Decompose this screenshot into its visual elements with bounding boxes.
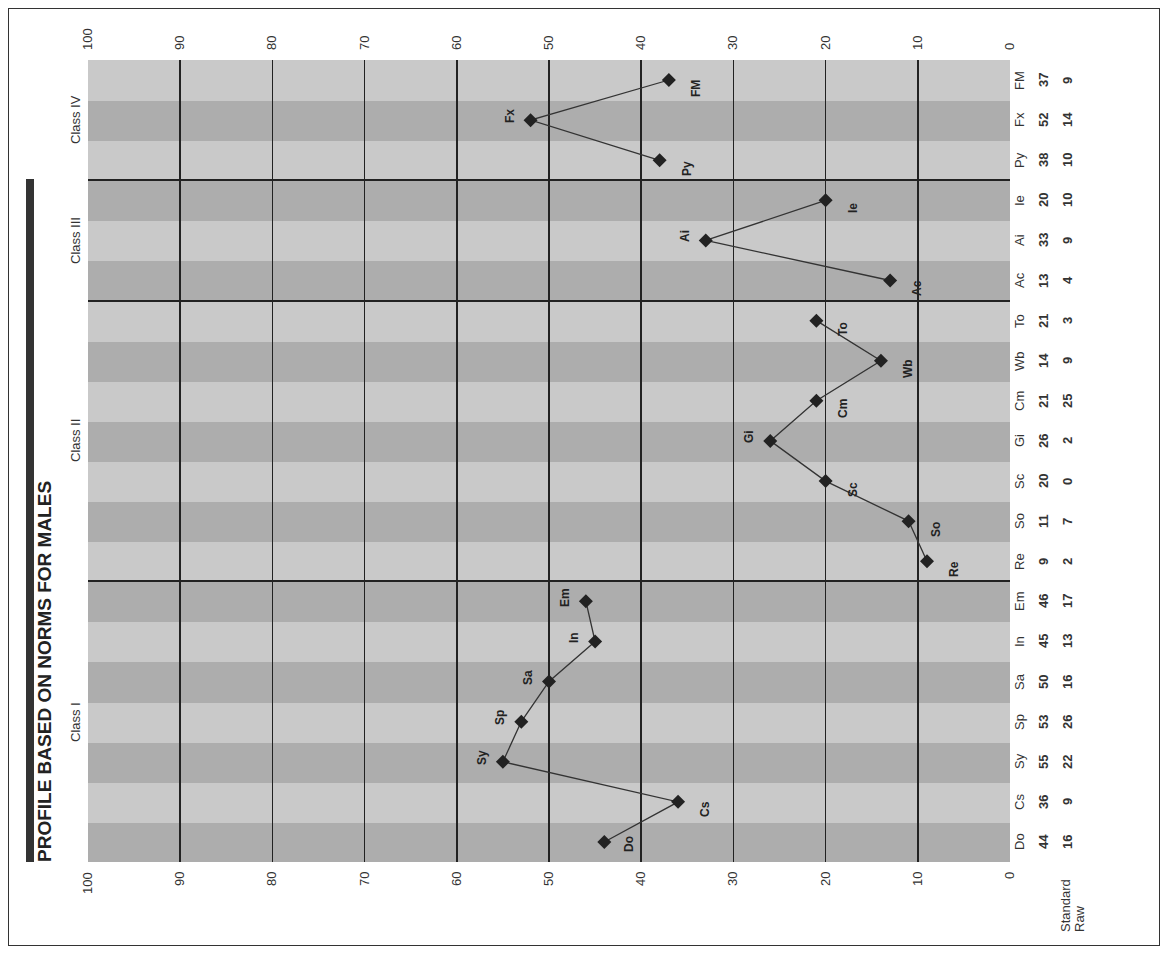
scale-name: Sp	[1012, 714, 1027, 730]
standard-score: 21	[1036, 393, 1051, 407]
raw-score: 3	[1060, 317, 1075, 324]
scale-name: Sy	[1012, 754, 1027, 769]
point-label: Sp	[493, 710, 507, 725]
raw-score: 7	[1060, 517, 1075, 524]
data-point-Wb	[874, 354, 888, 368]
raw-score: 9	[1060, 76, 1075, 83]
standard-score: 9	[1036, 558, 1051, 565]
point-label: Ai	[678, 230, 692, 242]
point-label: To	[836, 322, 850, 336]
point-label: Ac	[910, 281, 924, 296]
standard-score: 21	[1036, 313, 1051, 327]
row-header-raw: Raw	[1072, 906, 1087, 932]
point-label: Cs	[698, 802, 712, 817]
scale-name: To	[1012, 314, 1027, 328]
scale-name: Ai	[1012, 235, 1027, 247]
point-label: So	[929, 521, 943, 536]
raw-score: 2	[1060, 437, 1075, 444]
raw-score: 9	[1060, 798, 1075, 805]
raw-score: 26	[1060, 714, 1075, 728]
point-label: Ie	[846, 203, 860, 213]
point-label: Em	[558, 588, 572, 607]
scale-name: Ie	[1012, 195, 1027, 206]
data-point-Cs	[671, 795, 685, 809]
standard-score: 20	[1036, 193, 1051, 207]
standard-score: 26	[1036, 433, 1051, 447]
point-label: Sy	[475, 751, 489, 766]
standard-score: 36	[1036, 794, 1051, 808]
standard-score: 11	[1036, 514, 1051, 528]
point-label: Sc	[846, 482, 860, 497]
data-point-Re	[920, 554, 934, 568]
raw-score: 10	[1060, 193, 1075, 207]
standard-score: 13	[1036, 273, 1051, 287]
scale-name: Gi	[1012, 434, 1027, 447]
raw-score: 16	[1060, 834, 1075, 848]
scale-name: Py	[1012, 153, 1027, 168]
standard-score: 33	[1036, 233, 1051, 247]
raw-score: 22	[1060, 754, 1075, 768]
raw-score: 4	[1060, 277, 1075, 284]
scale-name: Wb	[1012, 351, 1027, 371]
scale-name: So	[1012, 513, 1027, 529]
scale-name: Cm	[1012, 391, 1027, 411]
point-label: Re	[947, 561, 961, 576]
scale-name: Fx	[1012, 113, 1027, 127]
point-label: FM	[689, 79, 703, 96]
point-label: Fx	[503, 109, 517, 123]
data-point-To	[809, 314, 823, 328]
raw-score: 25	[1060, 393, 1075, 407]
standard-score: 46	[1036, 594, 1051, 608]
raw-score: 10	[1060, 153, 1075, 167]
point-label: Sa	[521, 670, 535, 685]
standard-score: 38	[1036, 153, 1051, 167]
standard-score: 53	[1036, 714, 1051, 728]
data-point-Em	[579, 594, 593, 608]
data-point-Fx	[524, 113, 538, 127]
standard-score: 44	[1036, 834, 1051, 848]
scale-name: Em	[1012, 592, 1027, 612]
scale-name: Sc	[1012, 473, 1027, 488]
standard-score: 45	[1036, 634, 1051, 648]
scale-name: Ac	[1012, 273, 1027, 288]
profile-lines	[0, 0, 1170, 956]
raw-score: 14	[1060, 113, 1075, 127]
row-header-standard: Standard	[1058, 879, 1073, 932]
raw-score: 9	[1060, 237, 1075, 244]
scale-name: FM	[1012, 71, 1027, 90]
standard-score: 55	[1036, 754, 1051, 768]
raw-score: 17	[1060, 594, 1075, 608]
standard-score: 52	[1036, 113, 1051, 127]
point-label: Gi	[742, 431, 756, 444]
data-point-So	[902, 514, 916, 528]
scale-name: In	[1012, 636, 1027, 647]
point-label: Cm	[836, 399, 850, 418]
raw-score: 16	[1060, 674, 1075, 688]
data-point-Py	[653, 153, 667, 167]
data-point-Sp	[514, 715, 528, 729]
scale-name: Sa	[1012, 674, 1027, 690]
point-label: In	[567, 632, 581, 643]
data-point-Ac	[883, 274, 897, 288]
point-label: Py	[680, 161, 694, 176]
data-point-Sy	[496, 755, 510, 769]
scale-name: Do	[1012, 834, 1027, 851]
point-label: Wb	[901, 360, 915, 379]
point-label: Do	[622, 836, 636, 852]
data-point-Do	[597, 835, 611, 849]
scale-name: Cs	[1012, 794, 1027, 810]
scale-name: Re	[1012, 553, 1027, 570]
raw-score: 9	[1060, 357, 1075, 364]
standard-score: 50	[1036, 674, 1051, 688]
data-point-Sc	[819, 474, 833, 488]
standard-score: 14	[1036, 353, 1051, 367]
standard-score: 20	[1036, 474, 1051, 488]
raw-score: 13	[1060, 634, 1075, 648]
standard-score: 37	[1036, 73, 1051, 87]
data-point-Ai	[699, 233, 713, 247]
data-point-FM	[662, 73, 676, 87]
data-point-Ie	[819, 193, 833, 207]
raw-score: 2	[1060, 558, 1075, 565]
raw-score: 0	[1060, 477, 1075, 484]
